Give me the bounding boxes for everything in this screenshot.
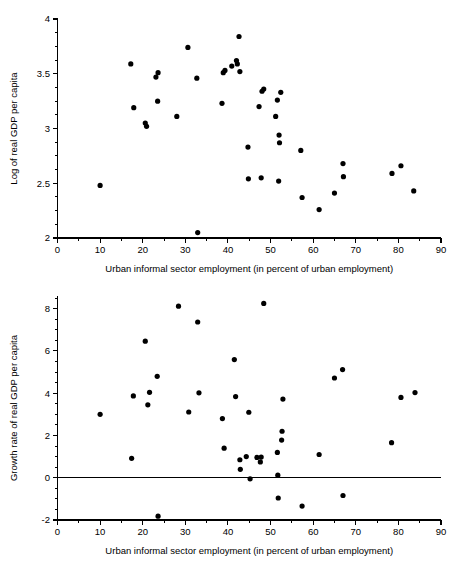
data-point bbox=[246, 410, 251, 415]
scatter-figure: 010203040506070809022.533.54Urban inform… bbox=[0, 0, 459, 578]
data-point bbox=[145, 402, 150, 407]
data-point bbox=[278, 90, 283, 95]
data-point bbox=[246, 176, 251, 181]
data-point bbox=[261, 86, 266, 91]
data-point bbox=[222, 446, 227, 451]
data-point bbox=[332, 191, 337, 196]
data-point bbox=[276, 132, 281, 137]
x-tick-label: 0 bbox=[55, 244, 60, 255]
data-point bbox=[256, 104, 261, 109]
x-tick-label: 90 bbox=[436, 244, 447, 255]
x-tick-label: 80 bbox=[393, 244, 404, 255]
data-point bbox=[299, 195, 304, 200]
data-point bbox=[275, 97, 280, 102]
data-point bbox=[245, 145, 250, 150]
data-point bbox=[155, 374, 160, 379]
x-tick-label: 70 bbox=[350, 526, 361, 537]
x-tick-label: 20 bbox=[137, 244, 148, 255]
data-point bbox=[186, 409, 191, 414]
x-axis-title: Urban informal sector employment (in per… bbox=[105, 263, 393, 274]
data-point bbox=[276, 495, 281, 500]
y-tick-label: 2 bbox=[45, 430, 50, 441]
log-gdp-scatter-plot: 010203040506070809022.533.54Urban inform… bbox=[0, 0, 459, 289]
y-tick-label: -2 bbox=[42, 514, 50, 525]
data-point bbox=[155, 99, 160, 104]
data-point bbox=[155, 70, 160, 75]
data-point bbox=[273, 114, 278, 119]
data-point-group bbox=[98, 34, 417, 235]
chart-panel-log-gdp: 010203040506070809022.533.54Urban inform… bbox=[0, 0, 459, 289]
x-tick-label: 0 bbox=[55, 526, 60, 537]
y-tick-label: 0 bbox=[45, 472, 50, 483]
x-tick-label: 50 bbox=[265, 244, 276, 255]
data-point bbox=[236, 34, 241, 39]
data-point bbox=[174, 114, 179, 119]
x-tick-label: 30 bbox=[180, 526, 191, 537]
data-point bbox=[259, 175, 264, 180]
data-point bbox=[248, 476, 253, 481]
data-point bbox=[220, 416, 225, 421]
x-tick-label: 40 bbox=[223, 244, 234, 255]
data-point bbox=[219, 101, 224, 106]
data-point bbox=[261, 301, 266, 306]
y-tick-label: 2.5 bbox=[37, 178, 50, 189]
data-point bbox=[276, 178, 281, 183]
data-point bbox=[317, 207, 322, 212]
data-point bbox=[232, 357, 237, 362]
growth-rate-scatter-plot: 0102030405060708090-202468Urban informal… bbox=[0, 289, 459, 578]
data-point bbox=[143, 339, 148, 344]
data-point bbox=[275, 450, 280, 455]
y-tick-label: 2 bbox=[45, 232, 50, 243]
x-tick-label: 80 bbox=[393, 526, 404, 537]
y-tick-label: 4 bbox=[45, 13, 50, 24]
data-point bbox=[131, 393, 136, 398]
data-point bbox=[411, 188, 416, 193]
data-point bbox=[128, 61, 133, 66]
data-point bbox=[131, 105, 136, 110]
data-point bbox=[235, 61, 240, 66]
data-point bbox=[317, 452, 322, 457]
data-point bbox=[298, 148, 303, 153]
y-axis-title: Growth rate of real GDP per capita bbox=[8, 334, 19, 481]
data-point bbox=[389, 440, 394, 445]
x-tick-label: 10 bbox=[95, 526, 106, 537]
data-point bbox=[244, 454, 249, 459]
x-tick-label: 10 bbox=[95, 244, 106, 255]
x-tick-label: 90 bbox=[436, 526, 447, 537]
data-point bbox=[237, 69, 242, 74]
y-tick-label: 3.5 bbox=[37, 68, 50, 79]
data-point bbox=[340, 367, 345, 372]
data-point bbox=[259, 454, 264, 459]
y-tick-label: 4 bbox=[45, 388, 50, 399]
x-tick-label: 60 bbox=[308, 526, 319, 537]
data-point bbox=[258, 459, 263, 464]
y-tick-label: 8 bbox=[45, 303, 50, 314]
axis-spine bbox=[58, 19, 442, 238]
data-point bbox=[398, 395, 403, 400]
data-point bbox=[238, 467, 243, 472]
x-tick-label: 20 bbox=[137, 526, 148, 537]
data-point bbox=[277, 140, 282, 145]
data-point bbox=[398, 163, 403, 168]
y-axis-title: Log of real GDP per capita bbox=[8, 72, 19, 185]
data-point bbox=[412, 390, 417, 395]
data-point bbox=[98, 183, 103, 188]
data-point bbox=[98, 412, 103, 417]
data-point bbox=[222, 68, 227, 73]
chart-panel-growth-rate: 0102030405060708090-202468Urban informal… bbox=[0, 289, 459, 578]
data-point bbox=[389, 171, 394, 176]
data-point bbox=[237, 457, 242, 462]
data-point bbox=[144, 124, 149, 129]
axis-spine bbox=[58, 296, 442, 520]
y-tick-label: 3 bbox=[45, 123, 50, 134]
data-point bbox=[341, 174, 346, 179]
data-point bbox=[155, 514, 160, 519]
data-point bbox=[340, 493, 345, 498]
data-point-group bbox=[98, 301, 418, 519]
data-point bbox=[196, 390, 201, 395]
data-point bbox=[185, 45, 190, 50]
data-point bbox=[332, 375, 337, 380]
data-point bbox=[340, 161, 345, 166]
x-tick-label: 60 bbox=[308, 244, 319, 255]
y-tick-label: 6 bbox=[45, 345, 50, 356]
